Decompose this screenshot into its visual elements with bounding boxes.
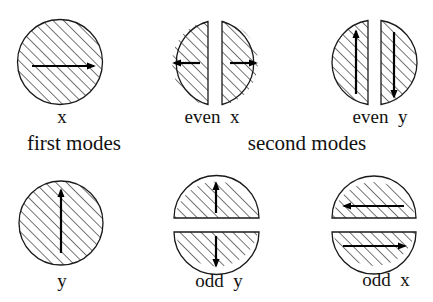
mode-even-y-right-half bbox=[381, 10, 430, 115]
mode-odd-y: odd y bbox=[170, 175, 265, 291]
mode-odd-y-label: odd y bbox=[195, 270, 243, 291]
mode-x-label: x bbox=[57, 106, 67, 127]
mode-even-x-label: even x bbox=[185, 106, 240, 127]
mode-y-label: y bbox=[57, 270, 67, 291]
mode-even-x: even x bbox=[150, 10, 280, 127]
mode-diagram: x even x even y first modes second modes… bbox=[0, 0, 433, 302]
mode-odd-x-label: odd x bbox=[362, 269, 410, 290]
mode-odd-x-bottom-half bbox=[328, 232, 420, 272]
mode-odd-x: odd x bbox=[328, 175, 420, 290]
second-modes-label: second modes bbox=[248, 131, 366, 155]
mode-even-y-label: even y bbox=[353, 106, 408, 127]
mode-x-disk bbox=[18, 20, 103, 105]
mode-x: x bbox=[18, 20, 103, 128]
mode-even-y: even y bbox=[325, 10, 430, 127]
mode-odd-x-top-half bbox=[328, 175, 420, 218]
mode-odd-y-top-half bbox=[170, 175, 265, 218]
mode-y: y bbox=[19, 181, 103, 291]
first-modes-label: first modes bbox=[27, 131, 121, 155]
mode-odd-y-bottom-half bbox=[170, 232, 265, 272]
